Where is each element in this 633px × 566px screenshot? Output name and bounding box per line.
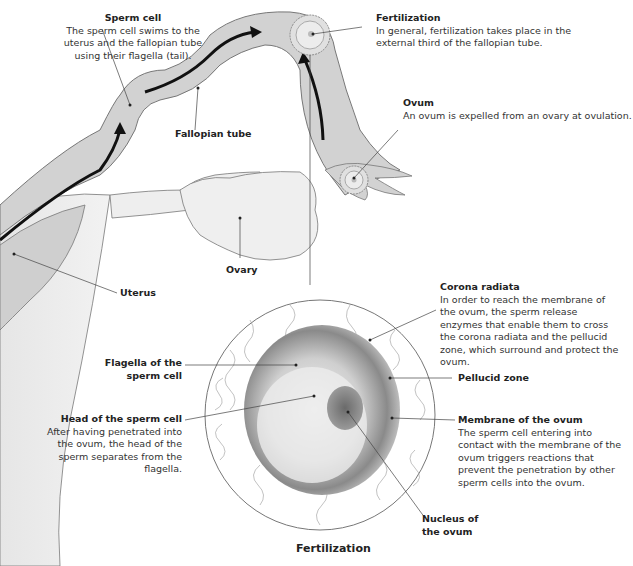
label-nucleus-ovum: Nucleus of the ovum [422,513,492,538]
label-title: Pellucid zone [458,372,529,385]
label-desc: After having penetrated into the ovum, t… [40,426,182,476]
label-title: Fallopian tube [175,128,251,141]
label-ovum: Ovum An ovum is expelled from an ovary a… [403,97,633,122]
label-uterus: Uterus [120,287,156,300]
label-title: Ovary [226,264,258,277]
label-title: Flagella of the sperm cell [95,357,182,382]
ovary-shape [180,172,318,260]
label-head-sperm: Head of the sperm cell After having pene… [40,413,182,476]
label-desc: The sperm cell swims to the uterus and t… [58,25,208,63]
label-desc: An ovum is expelled from an ovary at ovu… [403,110,633,123]
label-title: Head of the sperm cell [40,413,182,426]
label-desc: In general, fertilization takes place in… [376,25,606,50]
label-title: Membrane of the ovum [458,414,628,427]
label-pellucid-zone: Pellucid zone [458,372,529,385]
label-ovary: Ovary [226,264,258,277]
nucleus [327,386,363,430]
label-flagella: Flagella of the sperm cell [95,357,182,382]
label-desc: The sperm cell entering into contact wit… [458,427,628,490]
figure-caption: Fertilization [296,542,371,555]
label-title: Nucleus of the ovum [422,513,492,538]
label-title: Sperm cell [58,12,208,25]
label-sperm-cell: Sperm cell The sperm cell swims to the u… [58,12,208,62]
label-title: Uterus [120,287,156,300]
label-title: Corona radiata [440,281,620,294]
label-fallopian-tube: Fallopian tube [175,128,251,141]
label-fertilization: Fertilization In general, fertilization … [376,12,606,50]
label-desc: In order to reach the membrane of the ov… [440,294,620,369]
label-title: Ovum [403,97,633,110]
label-title: Fertilization [376,12,606,25]
label-membrane-ovum: Membrane of the ovum The sperm cell ente… [458,414,628,489]
label-corona-radiata: Corona radiata In order to reach the mem… [440,281,620,369]
